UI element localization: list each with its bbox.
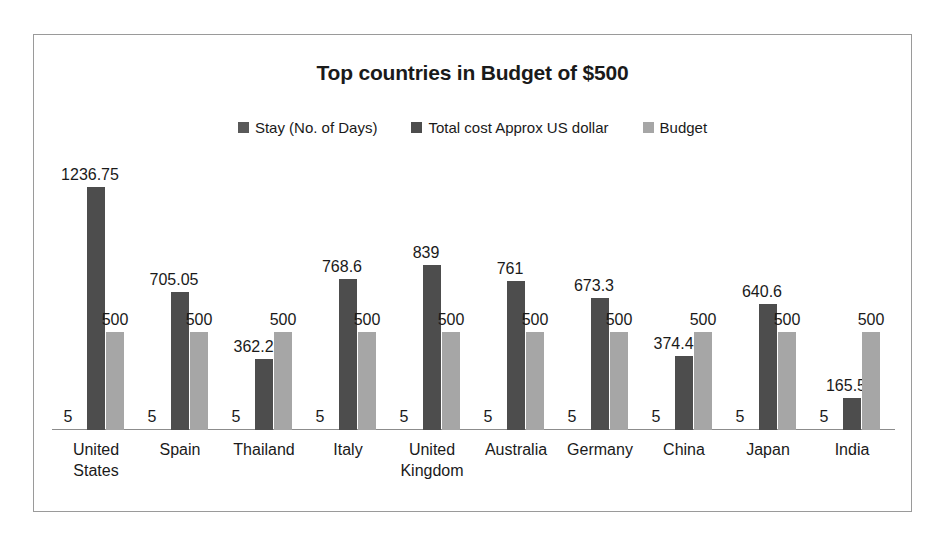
bar-value-label: 761 (470, 261, 550, 277)
bar[interactable] (87, 187, 105, 430)
legend-swatch-budget (643, 122, 654, 133)
x-axis-label: Spain (138, 439, 222, 460)
bar[interactable] (610, 332, 628, 430)
bar-group: 5374.45500 (642, 155, 726, 430)
bar-group: 5839500 (390, 155, 474, 430)
bar[interactable] (862, 332, 880, 430)
bar[interactable] (358, 332, 376, 430)
bar[interactable] (507, 281, 525, 430)
bar[interactable] (526, 332, 544, 430)
bar-value-label: 768.6 (302, 259, 382, 275)
legend-item-stay[interactable]: Stay (No. of Days) (238, 119, 378, 136)
x-axis-label: United Kingdom (390, 439, 474, 481)
bar-group: 5705.05500 (138, 155, 222, 430)
bar-group: 5165.5500 (810, 155, 894, 430)
bar-group: 5673.3500 (558, 155, 642, 430)
bar-value-label: 500 (421, 312, 481, 328)
bar-value-label: 5 (720, 409, 760, 425)
x-axis-label: Japan (726, 439, 810, 460)
bar-value-label: 500 (841, 312, 901, 328)
x-axis-label: China (642, 439, 726, 460)
bar-value-label: 640.6 (722, 284, 802, 300)
chart-legend: Stay (No. of Days) Total cost Approx US … (34, 119, 911, 136)
x-axis-label: United States (54, 439, 138, 481)
legend-label-total-cost: Total cost Approx US dollar (428, 119, 608, 136)
bar-group: 5640.6500 (726, 155, 810, 430)
x-axis-label: Germany (558, 439, 642, 460)
bar[interactable] (106, 332, 124, 430)
bar-value-label: 5 (300, 409, 340, 425)
legend-swatch-stay (238, 122, 249, 133)
bar-value-label: 500 (505, 312, 565, 328)
bar[interactable] (274, 332, 292, 430)
chart-frame: Top countries in Budget of $500 Stay (No… (33, 34, 912, 512)
plot-area: 51236.755005705.055005362.255005768.6500… (52, 155, 895, 430)
bar[interactable] (778, 332, 796, 430)
bar[interactable] (423, 265, 441, 430)
x-axis-label: Thailand (222, 439, 306, 460)
bar-value-label: 500 (337, 312, 397, 328)
x-axis-label: Italy (306, 439, 390, 460)
legend-swatch-total-cost (411, 122, 422, 133)
chart-title: Top countries in Budget of $500 (34, 61, 911, 85)
x-axis-label: India (810, 439, 894, 460)
bar-group: 5761500 (474, 155, 558, 430)
bar-value-label: 673.3 (554, 278, 634, 294)
bar-value-label: 5 (48, 409, 88, 425)
bar-value-label: 500 (85, 312, 145, 328)
x-axis-category-labels: United StatesSpainThailandItalyUnited Ki… (52, 439, 895, 499)
bar[interactable] (843, 398, 861, 431)
bar[interactable] (190, 332, 208, 430)
bar-group: 5362.25500 (222, 155, 306, 430)
bar-value-label: 839 (386, 245, 466, 261)
bar[interactable] (255, 359, 273, 430)
bar-value-label: 5 (468, 409, 508, 425)
bar-value-label: 5 (636, 409, 676, 425)
bar[interactable] (339, 279, 357, 430)
bar-value-label: 500 (253, 312, 313, 328)
bar-value-label: 500 (589, 312, 649, 328)
bar-group: 51236.75500 (54, 155, 138, 430)
legend-label-stay: Stay (No. of Days) (255, 119, 378, 136)
bar-value-label: 5 (384, 409, 424, 425)
bar[interactable] (694, 332, 712, 430)
bar-value-label: 500 (673, 312, 733, 328)
bar-value-label: 500 (757, 312, 817, 328)
bar-value-label: 500 (169, 312, 229, 328)
legend-item-total-cost[interactable]: Total cost Approx US dollar (411, 119, 608, 136)
x-axis-label: Australia (474, 439, 558, 460)
bar-value-label: 5 (132, 409, 172, 425)
bar[interactable] (675, 356, 693, 430)
bar-group: 5768.6500 (306, 155, 390, 430)
bar-value-label: 1236.75 (50, 167, 130, 183)
legend-item-budget[interactable]: Budget (643, 119, 708, 136)
legend-label-budget: Budget (660, 119, 708, 136)
bar-value-label: 5 (216, 409, 256, 425)
bar[interactable] (442, 332, 460, 430)
bar-value-label: 705.05 (134, 272, 214, 288)
bar-value-label: 5 (804, 409, 844, 425)
bar-value-label: 5 (552, 409, 592, 425)
